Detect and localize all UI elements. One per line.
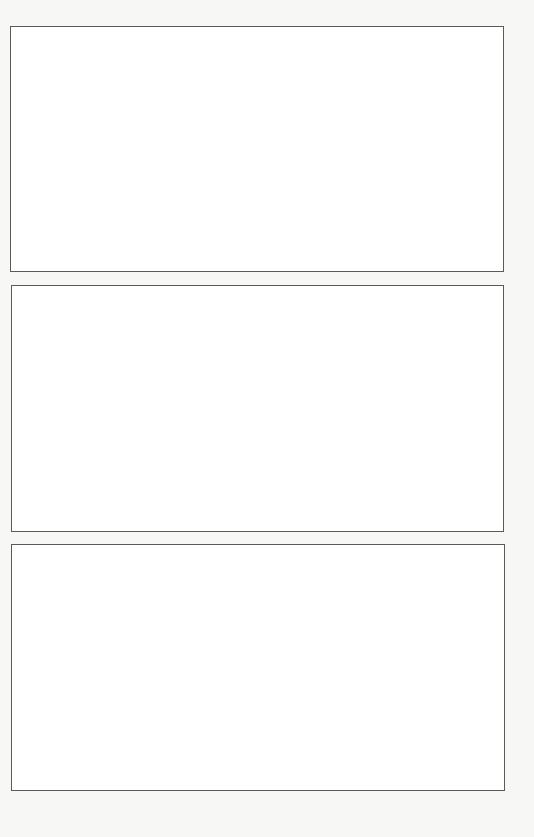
empty-panel-1 xyxy=(10,26,504,272)
empty-panel-3 xyxy=(11,544,505,791)
empty-panel-2 xyxy=(11,285,504,532)
